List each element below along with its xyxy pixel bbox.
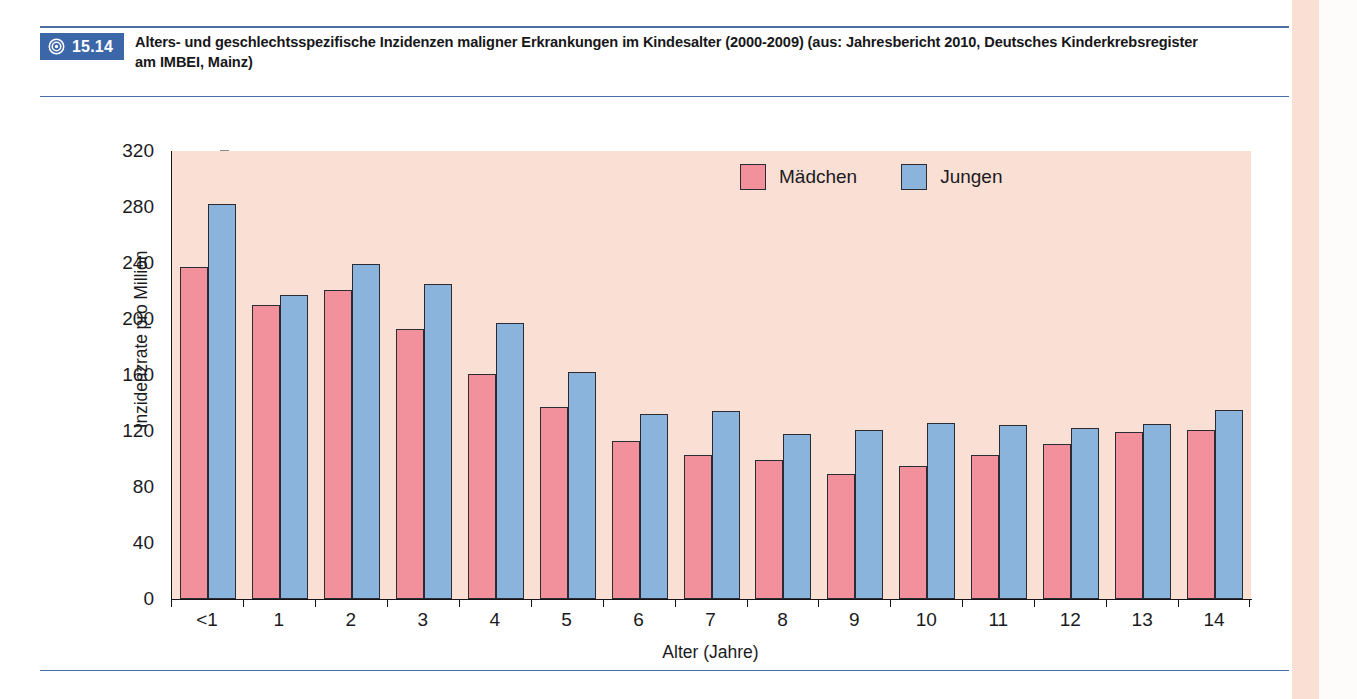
- bar-girls-12[interactable]: [1043, 444, 1071, 599]
- bar-group-11: [963, 151, 1035, 599]
- bar-girls-8[interactable]: [755, 460, 783, 599]
- bar-boys-9[interactable]: [855, 430, 883, 599]
- figure-number: 15.14: [72, 39, 113, 55]
- bar-chart: Inzidenzrate pro Million 040801201602002…: [40, 104, 1289, 664]
- x-tick-label-14: 14: [1178, 609, 1250, 631]
- x-tick-label-12: 12: [1034, 609, 1106, 631]
- figure-bottom-rule: [40, 670, 1289, 671]
- bar-boys-<1[interactable]: [208, 204, 236, 599]
- bar-girls-6[interactable]: [612, 441, 640, 599]
- x-tick-label-1: 1: [243, 609, 315, 631]
- x-tick-3: [387, 599, 459, 609]
- bar-boys-1[interactable]: [280, 295, 308, 599]
- x-tick-label-4: 4: [459, 609, 531, 631]
- x-tick-label-11: 11: [962, 609, 1034, 631]
- x-axis-ticks: [171, 599, 1250, 609]
- bar-group-10: [891, 151, 963, 599]
- caption-divider-rule: [40, 96, 1289, 97]
- bar-group-2: [316, 151, 388, 599]
- bar-group-<1: [172, 151, 244, 599]
- bar-boys-7[interactable]: [712, 411, 740, 599]
- bar-girls-10[interactable]: [899, 466, 927, 599]
- bar-girls-<1[interactable]: [180, 267, 208, 599]
- bar-boys-6[interactable]: [640, 414, 668, 599]
- bar-group-1: [244, 151, 316, 599]
- bar-girls-7[interactable]: [684, 455, 712, 599]
- x-tick-8: [747, 599, 819, 609]
- x-tick-11: [962, 599, 1034, 609]
- bar-boys-12[interactable]: [1071, 428, 1099, 599]
- page-right-margin: [1319, 0, 1357, 699]
- y-tick-label-280: 280: [122, 196, 154, 218]
- bar-group-14: [1179, 151, 1251, 599]
- bar-girls-1[interactable]: [252, 305, 280, 599]
- x-tick-label-<1: <1: [171, 609, 243, 631]
- bar-boys-10[interactable]: [927, 423, 955, 599]
- bar-girls-11[interactable]: [971, 455, 999, 599]
- x-tick-label-10: 10: [890, 609, 962, 631]
- bar-group-13: [1107, 151, 1179, 599]
- page-edge-tint-band: [1292, 0, 1319, 699]
- figure-caption-text: Alters- und geschlechtsspezifische Inzid…: [135, 32, 1210, 73]
- figure-number-badge: 15.14: [40, 33, 124, 60]
- x-tick-label-7: 7: [675, 609, 747, 631]
- bar-group-4: [460, 151, 532, 599]
- bar-group-6: [604, 151, 676, 599]
- bar-girls-9[interactable]: [827, 474, 855, 599]
- bar-group-3: [388, 151, 460, 599]
- bar-boys-13[interactable]: [1143, 424, 1171, 599]
- y-tick-label-160: 160: [122, 364, 154, 386]
- x-tick-label-3: 3: [387, 609, 459, 631]
- x-tick-10: [890, 599, 962, 609]
- legend-label: Jungen: [940, 166, 1002, 188]
- x-tick-label-8: 8: [747, 609, 819, 631]
- y-tick-label-240: 240: [122, 252, 154, 274]
- plot-area: [171, 151, 1251, 599]
- x-tick-label-6: 6: [603, 609, 675, 631]
- bar-boys-8[interactable]: [783, 434, 811, 599]
- bar-boys-3[interactable]: [424, 284, 452, 599]
- bar-girls-4[interactable]: [468, 374, 496, 599]
- bar-boys-2[interactable]: [352, 264, 380, 599]
- x-axis-tick-labels: <11234567891011121314: [171, 609, 1250, 631]
- chart-legend: MädchenJungen: [740, 164, 1003, 190]
- bar-girls-5[interactable]: [540, 407, 568, 599]
- y-tick-label-200: 200: [122, 308, 154, 330]
- bar-boys-4[interactable]: [496, 323, 524, 599]
- bar-group-7: [676, 151, 748, 599]
- bar-group-12: [1035, 151, 1107, 599]
- bar-group-9: [819, 151, 891, 599]
- legend-swatch-icon: [740, 164, 766, 190]
- x-tick-2: [315, 599, 387, 609]
- y-tick-label-120: 120: [122, 420, 154, 442]
- x-tick-13: [1106, 599, 1178, 609]
- x-tick-label-13: 13: [1106, 609, 1178, 631]
- figure-caption-row: 15.14 Alters- und geschlechtsspezifische…: [40, 26, 1289, 98]
- x-tick-<1: [171, 599, 243, 609]
- bar-group-8: [748, 151, 820, 599]
- bar-boys-14[interactable]: [1215, 410, 1243, 599]
- y-tick-label-320: 320: [122, 140, 154, 162]
- legend-swatch-icon: [901, 164, 927, 190]
- figure-container: 15.14 Alters- und geschlechtsspezifische…: [40, 26, 1289, 671]
- x-tick-6: [603, 599, 675, 609]
- x-axis-title: Alter (Jahre): [171, 642, 1250, 663]
- x-tick-label-5: 5: [531, 609, 603, 631]
- bullseye-icon: [48, 38, 65, 55]
- bar-boys-5[interactable]: [568, 372, 596, 599]
- legend-label: Mädchen: [779, 166, 857, 188]
- x-tick-9: [818, 599, 890, 609]
- x-tick-5: [531, 599, 603, 609]
- y-tick-label-0: 0: [143, 588, 154, 610]
- x-tick-7: [675, 599, 747, 609]
- bar-groups: [172, 151, 1251, 599]
- bar-girls-13[interactable]: [1115, 432, 1143, 599]
- legend-item-girls[interactable]: Mädchen: [740, 164, 857, 190]
- legend-item-boys[interactable]: Jungen: [901, 164, 1002, 190]
- bar-girls-3[interactable]: [396, 329, 424, 599]
- bar-girls-2[interactable]: [324, 290, 352, 599]
- x-tick-1: [243, 599, 315, 609]
- bar-boys-11[interactable]: [999, 425, 1027, 599]
- x-tick-4: [459, 599, 531, 609]
- bar-girls-14[interactable]: [1187, 430, 1215, 599]
